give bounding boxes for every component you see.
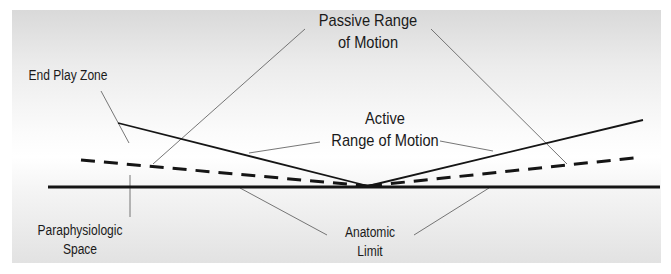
active-leader-left <box>249 142 320 153</box>
passive-range-label: Passive Range of Motion <box>310 10 427 54</box>
paraphysiologic-space-label: Paraphysiologic Space <box>30 221 130 259</box>
passive-range-line-right <box>368 158 634 186</box>
active-range-label: Active Range of Motion <box>325 108 445 152</box>
end-play-leader <box>101 91 129 143</box>
anatomic-leader-right <box>414 188 489 235</box>
passive-range-line-left <box>81 160 368 186</box>
passive-leader-left <box>153 29 305 164</box>
active-leader-right <box>440 141 493 151</box>
anatomic-leader-left <box>240 188 327 235</box>
end-play-zone-label: End Play Zone <box>23 66 112 85</box>
anatomic-limit-label: Anatomic Limit <box>331 223 408 261</box>
